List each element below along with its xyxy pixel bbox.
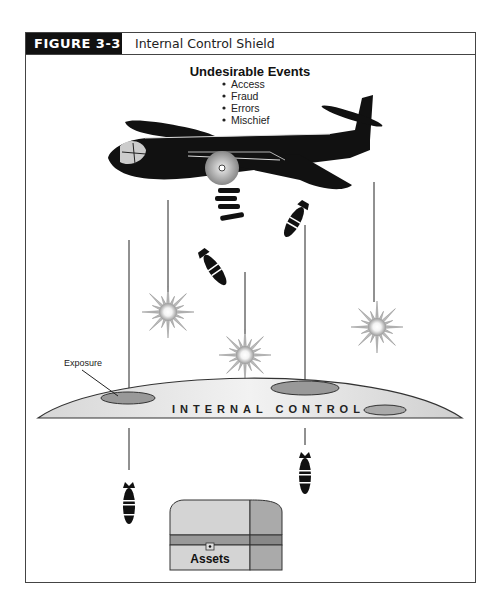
bullet-icon bbox=[222, 106, 225, 109]
event-item: Access bbox=[231, 78, 265, 90]
event-item: Mischief bbox=[231, 114, 270, 126]
event-item: Errors bbox=[231, 102, 260, 114]
treasure-chest-icon: Assets bbox=[170, 500, 282, 570]
bomb-icon bbox=[299, 452, 311, 494]
bullet-icon bbox=[222, 82, 225, 85]
events-heading: Undesirable Events bbox=[190, 64, 311, 79]
drop-lines bbox=[129, 182, 374, 470]
exposure-pointer bbox=[82, 370, 118, 396]
assets-label: Assets bbox=[190, 552, 230, 566]
event-item: Fraud bbox=[231, 90, 259, 102]
bomb-cluster-icon bbox=[215, 188, 244, 221]
bomb-icon bbox=[196, 247, 230, 288]
exposure-label: Exposure bbox=[64, 358, 102, 368]
exposure-hole bbox=[271, 381, 339, 395]
exposure-hole bbox=[364, 405, 406, 415]
exposure-hole bbox=[101, 392, 155, 404]
explosion-icon bbox=[219, 329, 271, 381]
bullet-icon bbox=[222, 94, 225, 97]
bomb-icon bbox=[280, 199, 310, 240]
shield-label: INTERNAL CONTROL bbox=[172, 403, 365, 415]
events-list: Access Fraud Errors Mischief bbox=[222, 78, 269, 126]
explosion-icon bbox=[351, 301, 403, 353]
explosion-icon bbox=[142, 286, 194, 338]
diagram-canvas: Undesirable Events Access Fraud Errors M… bbox=[0, 0, 501, 614]
bullet-icon bbox=[222, 118, 225, 121]
bomb-icon bbox=[123, 482, 135, 524]
